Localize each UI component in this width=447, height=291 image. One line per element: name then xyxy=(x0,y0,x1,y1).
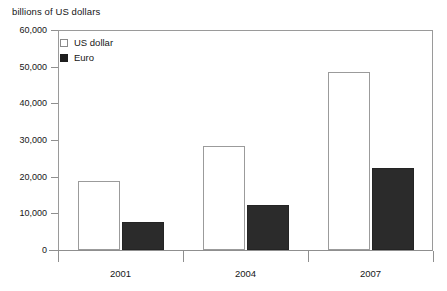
bar-euro-2004 xyxy=(247,205,289,250)
bar-chart: billions of US dollars 010,00020,00030,0… xyxy=(0,0,447,291)
filled-square-swatch xyxy=(60,54,68,62)
legend-item-label: Euro xyxy=(74,52,94,63)
x-axis-category-separator xyxy=(433,251,434,262)
x-axis-line xyxy=(49,250,433,251)
y-axis-tick xyxy=(51,250,58,251)
y-axis-tick xyxy=(51,30,58,31)
y-axis-tick-label: 40,000 xyxy=(19,98,47,108)
y-axis-line xyxy=(58,30,59,250)
bar-us-dollar-2007 xyxy=(328,72,370,250)
y-axis-tick-label: 0 xyxy=(42,245,47,255)
open-square-swatch xyxy=(60,39,68,47)
y-axis-tick xyxy=(51,67,58,68)
legend-item-label: US dollar xyxy=(74,37,113,48)
y-axis-tick-label: 20,000 xyxy=(19,172,47,182)
y-axis-tick xyxy=(51,140,58,141)
bar-euro-2001 xyxy=(122,222,164,250)
plot-frame-right xyxy=(432,30,433,251)
bar-us-dollar-2001 xyxy=(78,181,120,250)
x-axis-category-separator xyxy=(308,251,309,262)
y-axis-tick-label: 10,000 xyxy=(19,208,47,218)
plot-frame-top xyxy=(58,30,433,31)
plot-area: 010,00020,00030,00040,00050,00060,000 20… xyxy=(58,30,433,250)
y-axis-tick xyxy=(51,177,58,178)
bar-us-dollar-2004 xyxy=(203,146,245,250)
x-axis-category-label: 2001 xyxy=(110,268,131,279)
y-axis-tick-label: 50,000 xyxy=(19,62,47,72)
y-axis-tick xyxy=(51,213,58,214)
x-axis-category-separator xyxy=(58,251,59,262)
y-axis-tick xyxy=(51,103,58,104)
x-axis-category-label: 2004 xyxy=(235,268,256,279)
x-axis-category-separator xyxy=(183,251,184,262)
bar-euro-2007 xyxy=(372,168,414,250)
y-axis-tick-label: 30,000 xyxy=(19,135,47,145)
chart-title: billions of US dollars xyxy=(12,6,100,17)
y-axis-tick-label: 60,000 xyxy=(19,25,47,35)
x-axis-category-label: 2007 xyxy=(360,268,381,279)
legend-item: US dollar xyxy=(60,36,113,49)
legend-item: Euro xyxy=(60,51,113,64)
chart-legend: US dollarEuro xyxy=(60,36,113,66)
